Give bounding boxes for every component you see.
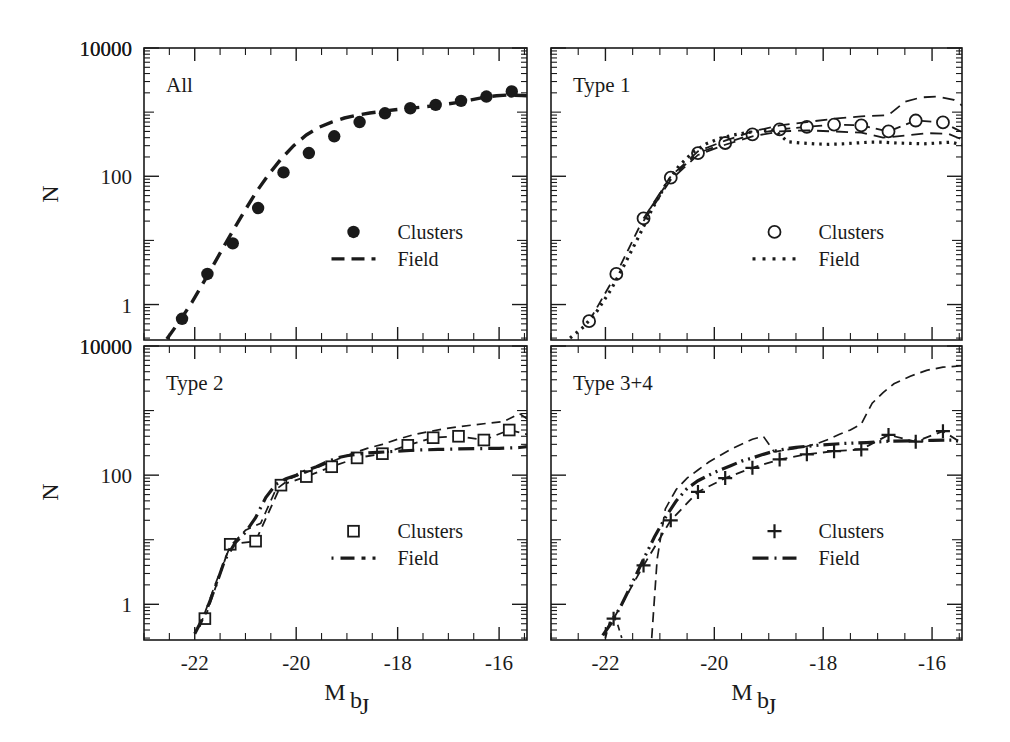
y-tick-label: 100 [101,464,133,488]
x-tick-label: -18 [384,651,412,675]
y-ticks-all [144,48,527,338]
data-point-type34 [800,447,814,461]
data-point-all [252,202,264,214]
series-line-type2-field [195,446,535,634]
data-point-type1 [883,125,895,137]
legend-label-field-type1: Field [819,248,860,270]
data-point-type1 [937,116,949,128]
series-line-type34-field [603,440,970,635]
data-point-type34 [773,452,787,466]
data-point-type2 [453,431,464,442]
panel-label-type2: Type 2 [166,371,223,395]
series-line-type34-clusters [614,431,971,618]
legend-type1: ClustersField [753,221,885,270]
x-tick-label: -20 [282,651,310,675]
data-point-type34 [691,485,705,499]
legend-type2: ClustersField [332,520,464,569]
y-tick-label: 1 [122,294,133,318]
y-axis-label: N [37,483,63,500]
series-line-type1-field-lower-envelope [644,130,971,221]
x-axis-label: M [324,679,345,705]
data-point-type34 [854,442,868,456]
legend-label-field-type34: Field [819,547,860,569]
panel-type2: Type 2ClustersField [144,346,535,640]
series-line-type34-field-upper-envelope [652,366,968,638]
data-point-type2 [326,461,337,472]
data-point-type34 [718,471,732,485]
data-point-type34 [745,461,759,475]
data-point-type2 [250,536,261,547]
x-tick-label: -16 [485,651,513,675]
y-axis-label: N [37,185,63,202]
legend-type34: ClustersField [753,520,885,569]
y-axis-top-label: 10000 [80,335,133,359]
legend-marker-type2 [348,526,359,537]
legend-label-clusters-type1: Clusters [819,221,885,243]
legend-all: ClustersField [332,221,464,270]
legend-label-clusters-type2: Clusters [398,520,464,542]
data-point-type1 [910,115,922,127]
legend-label-field-type2: Field [398,547,439,569]
data-point-all [328,130,340,142]
x-tick-label: -22 [181,651,209,675]
data-point-type1 [828,119,840,131]
panel-label-type34: Type 3+4 [573,371,653,395]
series-line-type1-field-upper-envelope [644,97,971,219]
x-tick-label: -16 [918,651,946,675]
series-line-all-field [167,95,535,339]
y-tick-label: 1 [122,593,133,617]
legend-marker-all [347,226,359,238]
series-group-type2 [195,414,535,634]
data-point-type2 [478,435,489,446]
data-point-all [303,147,315,159]
data-point-type2 [428,432,439,443]
panel-label-all: All [166,73,193,97]
x-axis-label-subsub: J [767,693,776,719]
x-ticks-all [144,48,524,340]
figure-root: AllClustersFieldType 1ClustersFieldType … [0,0,1010,742]
x-axis-label: M [731,679,752,705]
legend-label-clusters-type34: Clusters [819,520,885,542]
data-point-all [353,116,365,128]
x-tick-label: -22 [591,651,619,675]
data-point-type2 [504,425,515,436]
legend-label-clusters-all: Clusters [398,221,464,243]
y-tick-label: 100 [101,165,133,189]
legend-marker-type34 [768,524,782,538]
x-axis-label-subsub: J [360,693,369,719]
panel-type34: Type 3+4ClustersField [551,346,970,640]
panel-label-type1: Type 1 [573,73,630,97]
series-group-type1 [570,97,973,339]
series-group-type34 [603,366,970,638]
x-tick-label: -18 [809,651,837,675]
panel-frame-all [144,48,527,340]
panel-all: AllClustersField [144,48,535,340]
legend-marker-type1 [769,226,781,238]
data-point-type34 [936,424,950,438]
series-line-type2-clusters [205,430,535,619]
legend-label-field-all: Field [398,248,439,270]
luminosity-function-figure: AllClustersFieldType 1ClustersFieldType … [0,0,1010,742]
data-point-type1 [855,119,867,131]
panel-type1: Type 1ClustersField [551,48,973,340]
data-point-all [277,166,289,178]
data-point-type34 [827,444,841,458]
y-axis-top-label: 10000 [80,37,133,61]
x-tick-label: -20 [700,651,728,675]
series-group-all [167,85,535,339]
